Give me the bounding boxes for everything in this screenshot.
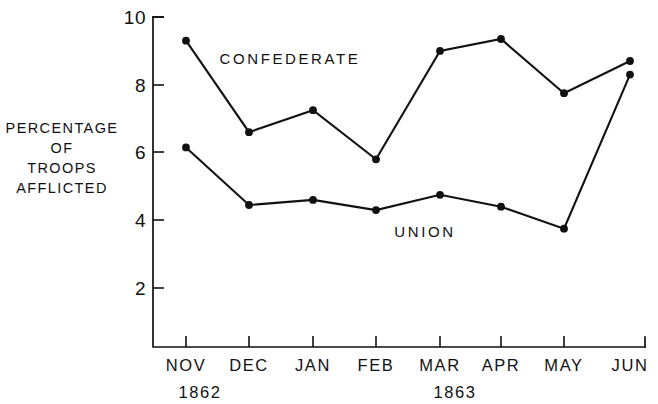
data-point	[436, 191, 444, 199]
series-label-confederate: CONFEDERATE	[220, 50, 361, 67]
chart-container: PERCENTAGE OF TROOPS AFFLICTED 10 8 6 4 …	[0, 0, 658, 404]
data-point	[309, 196, 317, 204]
y-axis-title: PERCENTAGE OF TROOPS AFFLICTED	[6, 120, 119, 196]
x-tick-label-apr: APR	[482, 356, 521, 374]
x-tick-label-jan: JAN	[295, 356, 331, 374]
x-tick-label-feb: FEB	[358, 356, 395, 374]
data-point	[309, 106, 317, 114]
data-point	[626, 71, 634, 79]
data-point	[245, 128, 253, 136]
x-tick-label-may: MAY	[544, 356, 583, 374]
y-tick-label-4: 4	[135, 210, 146, 231]
x-tick-label-nov: NOV	[166, 356, 207, 374]
y-tick-label-2: 2	[135, 278, 146, 299]
year-label-1863: 1863	[433, 383, 476, 401]
data-point	[560, 225, 568, 233]
data-point	[372, 155, 380, 163]
y-axis-title-line-4: AFFLICTED	[16, 180, 108, 196]
data-point	[182, 144, 190, 152]
data-point	[182, 37, 190, 45]
x-tick-label-mar: MAR	[419, 356, 460, 374]
y-tick-label-6: 6	[135, 142, 146, 163]
data-point	[560, 89, 568, 97]
y-tick-label-10: 10	[124, 7, 146, 28]
data-point	[436, 47, 444, 55]
data-point	[245, 201, 253, 209]
y-axis-title-line-1: PERCENTAGE	[6, 120, 119, 136]
data-point	[497, 203, 505, 211]
series-label-union: UNION	[394, 223, 455, 240]
y-tick-label-8: 8	[135, 75, 146, 96]
data-point	[372, 206, 380, 214]
x-axis-ticks: NOV DEC JAN FEB MAR APR MAY JUN	[166, 336, 649, 374]
line-chart-figure: PERCENTAGE OF TROOPS AFFLICTED 10 8 6 4 …	[0, 0, 658, 404]
x-tick-label-jun: JUN	[612, 356, 649, 374]
y-axis-title-line-2: OF	[51, 140, 74, 156]
series-annotations: CONFEDERATE UNION	[220, 50, 456, 240]
x-axis-year-labels: 1862 1863	[178, 383, 476, 401]
data-point	[626, 57, 634, 65]
x-tick-label-dec: DEC	[229, 356, 269, 374]
year-label-1862: 1862	[178, 383, 221, 401]
data-point	[497, 35, 505, 43]
y-axis-ticks: 10 8 6 4 2	[124, 7, 164, 299]
y-axis-title-line-3: TROOPS	[27, 160, 97, 176]
